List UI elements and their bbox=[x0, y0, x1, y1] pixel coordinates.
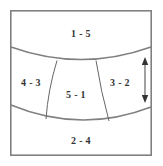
upper-boundary-curve bbox=[11, 47, 151, 60]
left-divider-curve bbox=[46, 61, 57, 120]
right-divider-curve bbox=[96, 61, 109, 122]
dimension-arrowhead-up bbox=[142, 57, 148, 65]
region-label-top: 1 - 5 bbox=[71, 28, 91, 39]
dimension-arrowhead-down bbox=[142, 95, 148, 103]
region-label-bottom: 2 - 4 bbox=[71, 135, 91, 146]
lower-boundary-curve bbox=[11, 105, 151, 120]
region-label-right: 3 - 2 bbox=[110, 77, 130, 88]
diagram-canvas: 1 - 5 4 - 3 5 - 1 3 - 2 2 - 4 bbox=[0, 0, 163, 166]
region-partition-diagram: 1 - 5 4 - 3 5 - 1 3 - 2 2 - 4 bbox=[0, 0, 163, 166]
region-label-center: 5 - 1 bbox=[66, 89, 86, 100]
region-label-left: 4 - 3 bbox=[21, 77, 41, 88]
vertical-dimension-arrow bbox=[142, 57, 148, 103]
